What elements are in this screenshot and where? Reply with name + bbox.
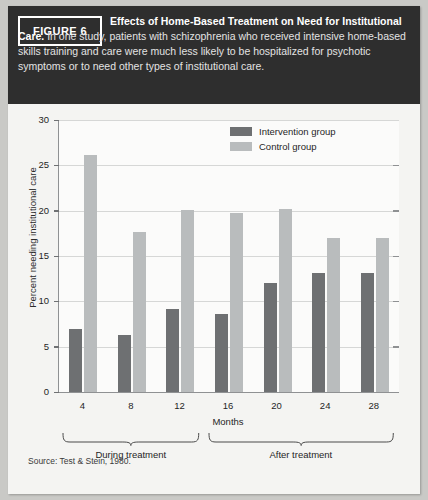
figure-card: FIGURE 6 Effects of Home-Based Treatment… [8,6,420,494]
x-axis-tick-label: 8 [111,400,151,411]
source-note: Source: Test & Stein, 1980. [28,456,131,466]
y-axis-tick-mark [54,120,59,122]
gridline [59,211,399,212]
plot-area: 051015202530 [58,120,399,393]
y-axis-right-tick-mark [393,346,399,348]
gridline [59,165,399,166]
y-axis-tick-label: 10 [23,295,49,306]
phase-bracket [62,432,200,446]
y-axis-tick-label: 30 [23,114,49,125]
gridline [59,347,399,348]
gridline [59,120,399,121]
bar [361,273,374,392]
x-axis-title: Months [188,416,268,427]
x-axis-tick-label: 16 [208,400,248,411]
bar [312,273,325,392]
y-axis-tick-label: 15 [23,250,49,261]
y-axis-tick-label: 20 [23,205,49,216]
y-axis-tick-label: 25 [23,159,49,170]
y-axis-tick-label: 5 [23,341,49,352]
bar [84,155,97,392]
y-axis-tick-mark [54,256,59,258]
y-axis-tick-mark [54,392,59,394]
bar [215,314,228,392]
caption-body: In one study, patients with schizophreni… [18,30,406,72]
legend-swatch [230,142,252,151]
y-axis-right-tick-mark [393,301,399,303]
y-axis-tick-mark [54,165,59,167]
bar [166,309,179,392]
y-axis-tick-mark [54,210,59,212]
bar [279,209,292,392]
legend-entry: Intervention group [230,126,336,137]
bar [376,238,389,392]
x-axis-tick-label: 28 [354,400,394,411]
figure-header: FIGURE 6 Effects of Home-Based Treatment… [8,6,420,104]
bar [118,335,131,392]
y-axis-right-tick-mark [393,256,399,258]
legend-entry: Control group [230,141,336,152]
phase-bracket [208,432,394,446]
bar [181,210,194,392]
y-axis-tick-label: 0 [23,386,49,397]
figure-caption: Effects of Home-Based Treatment on Need … [18,14,412,74]
bar [327,238,340,392]
bar [264,283,277,392]
x-axis-tick-label: 12 [159,400,199,411]
phase-bracket-label: After treatment [241,449,361,460]
bar [230,213,243,392]
x-axis-tick-label: 24 [305,400,345,411]
x-axis-tick-label: 20 [257,400,297,411]
legend-label: Intervention group [259,126,336,137]
gridline [59,301,399,302]
y-axis-tick-mark [54,346,59,348]
bar [69,329,82,392]
bar [133,232,146,392]
x-axis-tick-label: 4 [62,400,102,411]
legend-swatch [230,127,252,136]
y-axis-right-tick-mark [393,210,399,212]
y-axis-tick-mark [54,301,59,303]
gridline [59,256,399,257]
y-axis-right-tick-mark [393,165,399,167]
legend-label: Control group [259,141,317,152]
chart-body: Percent needing institutional care 05101… [8,104,420,494]
chart-legend: Intervention groupControl group [230,126,336,156]
